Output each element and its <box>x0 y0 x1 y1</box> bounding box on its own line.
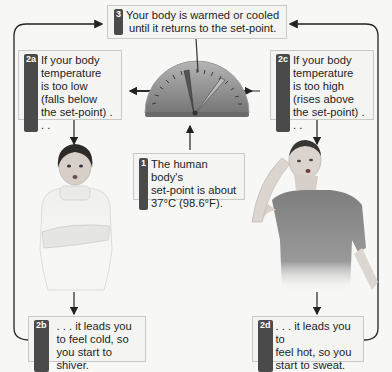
step-2b-text: . . . it leads you to feel cold, so you … <box>57 320 140 372</box>
step-2d-box: 2d . . . it leads you to feel hot, so yo… <box>252 316 364 362</box>
sweating-person-illustration <box>252 140 378 292</box>
step-3-text: Your body is warmed or cooled until it r… <box>126 9 279 35</box>
step-2b-badge: 2b <box>34 320 49 372</box>
step-2a-badge: 2a <box>24 54 38 132</box>
step-2d-badge: 2d <box>258 320 273 372</box>
step-2c-text: If your body temperature is too high (ri… <box>293 54 368 132</box>
step-3-box: 3 Your body is warmed or cooled until it… <box>107 5 287 39</box>
thermostat-dial-icon <box>145 38 249 117</box>
step-1-badge: 1 <box>139 158 148 210</box>
step-1-box: 1 The human body's set-point is about 37… <box>133 153 245 200</box>
step-2c-badge: 2c <box>276 54 290 132</box>
step-2d-text: . . . it leads you to feel hot, so you s… <box>276 320 358 372</box>
step-2a-text: If your body temperature is too low (fal… <box>41 54 116 132</box>
step-1-text: The human body's set-point is about 37°C… <box>151 158 239 210</box>
step-2b-box: 2b . . . it leads you to feel cold, so y… <box>28 316 146 362</box>
step-2a-box: 2a If your body temperature is too low (… <box>18 50 122 120</box>
shivering-person-illustration <box>40 144 112 290</box>
step-3-badge: 3 <box>114 9 123 35</box>
step-2c-box: 2c If your body temperature is too high … <box>270 50 374 120</box>
